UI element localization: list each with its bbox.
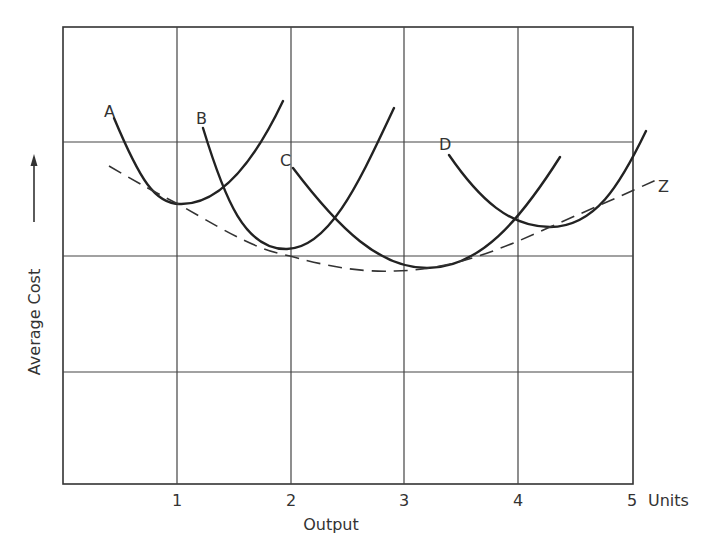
chart-canvas: A B C D Z 1 2 3 4 5 Units Output Average… (0, 0, 725, 558)
y-axis-title: Average Cost (25, 269, 44, 375)
x-axis-title: Output (303, 515, 359, 534)
x-tick-4: 4 (513, 491, 523, 510)
x-tick-2: 2 (286, 491, 296, 510)
curve-label-d: D (439, 135, 451, 154)
curve-c (293, 157, 560, 268)
gridlines (63, 27, 633, 484)
x-tick-1: 1 (172, 491, 182, 510)
x-unit-label: Units (648, 491, 689, 510)
y-axis-arrow-icon (31, 154, 38, 222)
curve-label-c: C (280, 151, 291, 170)
curve-label-b: B (196, 109, 207, 128)
x-tick-3: 3 (399, 491, 409, 510)
curve-d (449, 131, 646, 227)
x-tick-5: 5 (627, 491, 637, 510)
y-axis-title-text: Average Cost (25, 269, 44, 375)
curve-label-a: A (104, 102, 115, 121)
curve-label-z: Z (658, 177, 669, 196)
